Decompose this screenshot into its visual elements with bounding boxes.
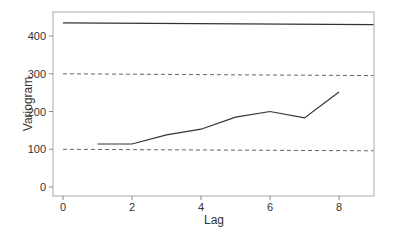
y-tick-label: 400 bbox=[28, 30, 46, 42]
x-axis: 02468 bbox=[60, 196, 342, 213]
series-group bbox=[63, 23, 374, 151]
x-tick-label: 6 bbox=[267, 201, 273, 213]
x-tick-label: 4 bbox=[198, 201, 204, 213]
series-line-upper-envelope bbox=[63, 74, 374, 76]
series-line-lower-envelope bbox=[63, 149, 374, 151]
y-axis-label: Variogram bbox=[21, 77, 35, 131]
plot-frame bbox=[53, 12, 374, 196]
y-tick-label: 0 bbox=[40, 181, 46, 193]
x-tick-label: 8 bbox=[336, 201, 342, 213]
x-axis-label: Lag bbox=[204, 213, 224, 227]
series-line-empirical-variogram bbox=[98, 92, 340, 144]
variogram-chart: 0100200300400 02468 Lag Variogram bbox=[0, 0, 401, 234]
y-tick-label: 100 bbox=[28, 143, 46, 155]
series-line-sill bbox=[63, 23, 374, 25]
x-tick-label: 2 bbox=[129, 201, 135, 213]
x-tick-label: 0 bbox=[60, 201, 66, 213]
